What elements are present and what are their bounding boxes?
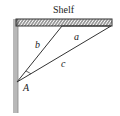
wall	[13, 19, 18, 113]
side-b	[17, 26, 62, 82]
shelf-bracket-diagram: Shelf a b c A	[0, 0, 120, 116]
vertex-label-a: A	[22, 82, 30, 93]
shelf	[16, 19, 112, 26]
angle-arc-icon	[26, 71, 31, 74]
label-b: b	[35, 39, 40, 50]
label-c: c	[61, 58, 66, 69]
shelf-label: Shelf	[53, 4, 75, 15]
label-a: a	[74, 31, 79, 42]
